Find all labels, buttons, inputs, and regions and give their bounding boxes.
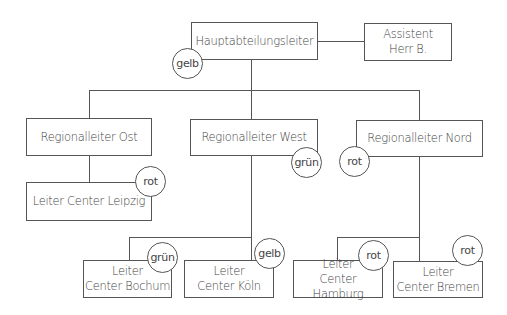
node-hauptabteilungsleiter[interactable]: Hauptabteilungsleiter — [191, 22, 318, 60]
status-badge-gruen: grün — [147, 242, 178, 273]
node-title-line2: Center Hamburg — [294, 272, 382, 302]
node-title-line1: Leiter — [323, 257, 354, 272]
node-title-line2: Herr B. — [389, 42, 427, 57]
status-badge-rot: rot — [452, 235, 483, 266]
connector-ost-leipzig — [89, 155, 90, 182]
node-title-line1: Leiter — [214, 264, 245, 279]
connector-west-bus — [129, 237, 251, 238]
org-chart: Hauptabteilungsleiter gelb Assistent Her… — [0, 0, 507, 315]
node-title: Regionalleiter Ost — [41, 130, 138, 145]
status-badge-gelb: gelb — [172, 48, 203, 79]
node-title-line2: Center Bochum — [85, 279, 170, 294]
node-title-line1: Leiter — [423, 265, 454, 280]
node-title: Regionalleiter Nord — [367, 131, 471, 146]
node-title-line1: Assistent — [383, 27, 433, 42]
node-title: Hauptabteilungsleiter — [195, 34, 313, 49]
connector-nord-bus — [337, 237, 419, 238]
node-title: Leiter Center Leipzig — [33, 194, 145, 209]
node-assistent[interactable]: Assistent Herr B. — [364, 23, 452, 61]
node-regionalleiter-nord[interactable]: Regionalleiter Nord — [356, 120, 483, 157]
node-title: Regionalleiter West — [201, 130, 306, 145]
status-badge-rot: rot — [358, 240, 389, 271]
connector-nord-down — [419, 156, 420, 261]
node-title-line1: Leiter — [112, 264, 143, 279]
connector-bochum — [129, 237, 130, 260]
status-badge-rot: rot — [339, 146, 370, 177]
connector-regions-bus — [89, 90, 420, 91]
status-badge-rot: rot — [135, 166, 166, 197]
status-badge-gelb: gelb — [254, 238, 285, 269]
node-title-line2: Center Bremen — [396, 280, 479, 295]
connector-west-down — [251, 155, 252, 260]
connector-top-down — [251, 59, 252, 119]
node-regionalleiter-ost[interactable]: Regionalleiter Ost — [26, 118, 152, 156]
connector-top-assistant — [317, 41, 364, 42]
connector-ost — [89, 90, 90, 118]
node-center-leipzig[interactable]: Leiter Center Leipzig — [26, 182, 152, 221]
connector-nord — [419, 90, 420, 120]
node-center-bremen[interactable]: Leiter Center Bremen — [393, 261, 483, 298]
status-badge-gruen: grün — [291, 147, 322, 178]
node-title-line2: Center Köln — [197, 279, 261, 294]
